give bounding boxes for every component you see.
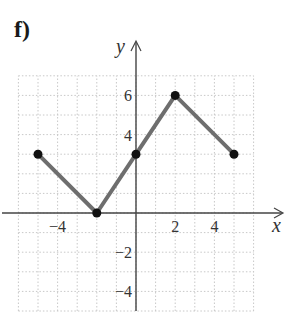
- x-tick-label: 4: [210, 218, 218, 235]
- axes: xy: [2, 35, 283, 311]
- y-axis-label: y: [114, 35, 125, 58]
- x-tick-label: −4: [49, 218, 66, 235]
- line-chart: xy −42464−2−4: [0, 0, 295, 335]
- x-tick-label: 2: [171, 218, 179, 235]
- y-tick-label: −4: [115, 283, 132, 300]
- data-point-marker: [171, 91, 180, 100]
- y-tick-label: 6: [124, 87, 132, 104]
- data-point-marker: [132, 150, 141, 159]
- data-point-marker: [34, 150, 43, 159]
- y-tick-label: −2: [115, 244, 132, 261]
- x-axis-label: x: [271, 214, 281, 236]
- data-point-marker: [92, 209, 101, 218]
- y-tick-label: 4: [124, 127, 132, 144]
- data-point-marker: [230, 150, 239, 159]
